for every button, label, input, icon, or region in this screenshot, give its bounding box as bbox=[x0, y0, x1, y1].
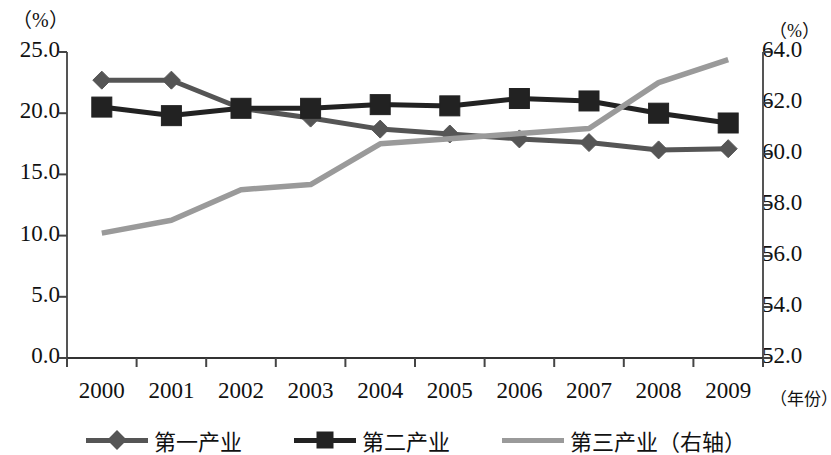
legend-item-1[interactable]: 第一产业 bbox=[86, 424, 242, 455]
chart-figure: （%） （%） （年份） 0.05.010.015.020.025.052.05… bbox=[0, 0, 831, 455]
legend-label: 第二产业 bbox=[362, 424, 450, 455]
axis-lines bbox=[59, 52, 771, 367]
legend-label: 第一产业 bbox=[154, 424, 242, 455]
plot-area bbox=[0, 0, 831, 455]
legend-swatch-diamond-icon bbox=[86, 430, 148, 450]
legend-label: 第三产业（右轴） bbox=[570, 424, 746, 455]
legend-swatch-square-icon bbox=[294, 430, 356, 450]
chart-legend: 第一产业第二产业第三产业（右轴） bbox=[0, 424, 831, 455]
legend-item-3[interactable]: 第三产业（右轴） bbox=[502, 424, 746, 455]
legend-item-2[interactable]: 第二产业 bbox=[294, 424, 450, 455]
data-series-layer bbox=[92, 60, 738, 234]
legend-swatch-none-icon bbox=[502, 430, 564, 450]
